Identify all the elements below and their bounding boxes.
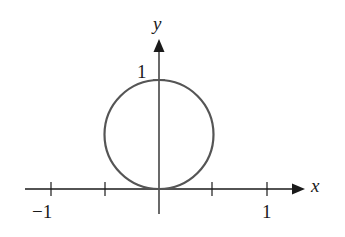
- diagram: y x 1 −1 1: [0, 0, 345, 237]
- x-axis-label: x: [311, 176, 319, 195]
- x-tick-label-1: 1: [262, 202, 272, 221]
- y-tick-label-1: 1: [137, 62, 147, 81]
- y-axis-label: y: [153, 14, 161, 33]
- x-tick-label-neg1: −1: [32, 202, 52, 221]
- y-axis-arrow-icon: [154, 39, 165, 52]
- x-axis-arrow-icon: [292, 184, 305, 195]
